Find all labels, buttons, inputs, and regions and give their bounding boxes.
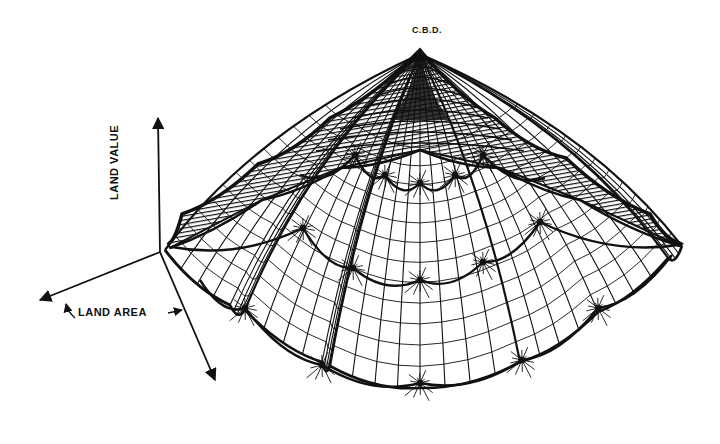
land-value-axis-label: LAND VALUE — [108, 125, 120, 200]
hub-center — [382, 172, 388, 178]
web-hub-node — [468, 249, 496, 280]
hub-center — [417, 180, 423, 186]
hub-center — [319, 362, 325, 368]
hub-center — [595, 305, 601, 311]
land-area-pointer-left — [66, 304, 75, 318]
hub-center — [350, 265, 356, 271]
hub-center — [537, 219, 543, 225]
hub-center — [480, 152, 486, 158]
hub-center — [242, 305, 248, 311]
land-area-axis-left — [40, 252, 160, 300]
land-area-axis-right — [160, 252, 215, 380]
hub-center — [417, 380, 423, 386]
web-surface — [0, 0, 720, 444]
land-area-axis-label: LAND AREA — [78, 306, 147, 318]
surface-outline — [165, 246, 682, 388]
hub-center — [300, 225, 306, 231]
web-hub-node — [370, 162, 398, 193]
hub-center — [452, 172, 458, 178]
land-value-axis — [158, 118, 160, 252]
hub-center — [417, 277, 423, 283]
web-hub-node — [405, 170, 433, 201]
outer-boundary — [165, 246, 682, 388]
cbd-label: C.B.D. — [412, 25, 442, 35]
hub-center — [519, 357, 525, 363]
web-hub-node — [507, 347, 535, 378]
hub-center — [480, 259, 486, 265]
land-area-pointer-right — [168, 310, 182, 313]
hub-center — [352, 152, 358, 158]
